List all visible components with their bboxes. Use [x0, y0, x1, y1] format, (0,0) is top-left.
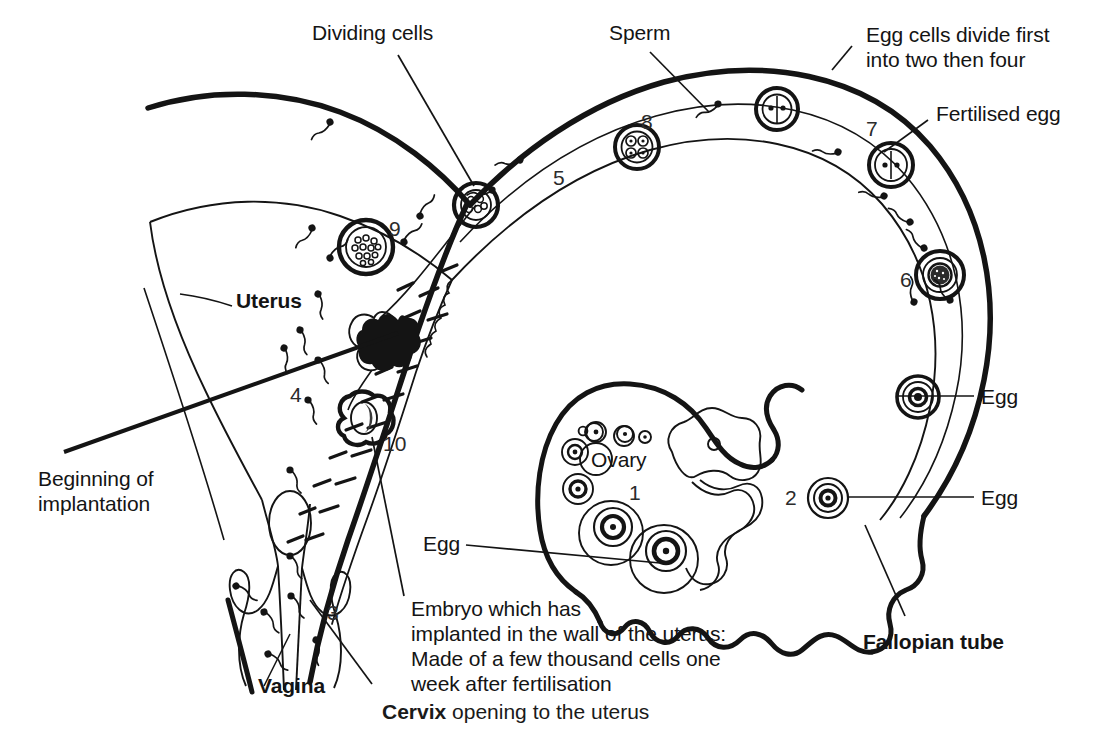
label-ovary: Ovary: [591, 447, 647, 472]
label-egg-ovary: Egg: [423, 531, 460, 556]
stage-number-6: 6: [900, 268, 912, 292]
label-embryo-note: Embryo which has implanted in the wall o…: [411, 596, 726, 696]
stage-number-8: 8: [641, 110, 653, 134]
leader-dividing-cells: [398, 55, 474, 186]
label-vagina: Vagina: [258, 673, 325, 698]
two-cell-stage-7: [869, 143, 913, 187]
label-egg-cells-divide: Egg cells divide first into two then fou…: [866, 22, 1049, 72]
stage-number-1: 1: [629, 481, 641, 505]
two-cell-stage-upper: [756, 88, 798, 130]
label-cervix-bold: Cervix: [382, 700, 446, 723]
egg-stage-2: [808, 478, 848, 518]
stage-number-3: 3: [327, 601, 339, 625]
stage-number-2: 2: [785, 486, 797, 510]
label-fertilised-egg: Fertilised egg: [936, 101, 1061, 126]
label-egg-right-lower: Egg: [981, 485, 1018, 510]
stage-number-4: 4: [290, 383, 302, 407]
fertilisation-stage-6: [916, 251, 964, 299]
leader-lines: [144, 46, 974, 686]
stage-number-5: 5: [553, 166, 565, 190]
leader-beginning-of-implantation: [64, 333, 398, 452]
blastocyst-stage-9: [339, 220, 393, 274]
leader-fallopian-tube: [865, 525, 905, 616]
diagram-canvas: Dividing cells Sperm Egg cells divide fi…: [0, 0, 1103, 752]
label-cervix: Cervix opening to the uterus: [382, 699, 649, 724]
label-fallopian-tube: Fallopian tube: [863, 629, 1004, 654]
stage-number-9: 9: [389, 217, 401, 241]
label-egg-right-upper: Egg: [981, 384, 1018, 409]
label-beginning-of-implantation: Beginning of implantation: [38, 466, 154, 516]
label-cervix-rest: opening to the uterus: [446, 700, 649, 723]
leader-egg-cells-divide: [832, 46, 852, 70]
stage-number-7: 7: [866, 117, 878, 141]
stage-number-10: 10: [383, 432, 406, 456]
label-uterus: Uterus: [236, 288, 302, 313]
label-dividing-cells: Dividing cells: [312, 20, 433, 45]
label-sperm: Sperm: [609, 20, 670, 45]
egg-in-tube-upper: [897, 376, 939, 418]
